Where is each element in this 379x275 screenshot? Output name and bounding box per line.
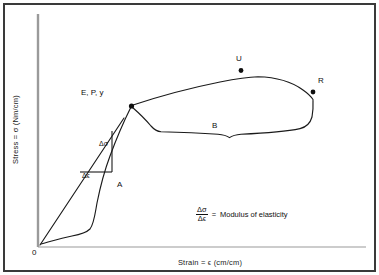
y-axis-label: Stress = σ (Nm/cm) [11,82,20,178]
formula-equals-sign: = [212,210,216,219]
marker-elastic-limit [129,103,134,108]
elastic-limit-label: E, P, y [81,88,104,97]
point-a-label: A [117,180,122,189]
delta-epsilon-label: Δϵ [82,172,90,179]
modulus-formula: Δσ Δϵ = Modulus of elasticity [196,206,288,223]
origin-label: 0 [32,248,36,257]
formula-result-text: Modulus of elasticity [220,210,288,219]
ultimate-curve [132,77,314,106]
point-b-label: B [212,121,217,130]
fraction-denominator: Δϵ [197,215,207,223]
marker-ultimate [239,68,244,73]
delta-sigma-label: Δσ [99,140,108,147]
rupture-label: R [318,76,324,85]
modulus-fraction: Δσ Δϵ [196,206,208,223]
ultimate-label: U [236,54,242,63]
yield-plateau-curve [132,100,313,137]
marker-rupture [311,90,316,95]
stress-strain-figure: Stress = σ (Nm/cm) Strain = ϵ (cm/cm) 0 … [0,0,379,275]
x-axis-label: Strain = ϵ (cm/cm) [150,258,270,267]
unloading-line [40,118,124,245]
stress-strain-plot [0,0,379,275]
